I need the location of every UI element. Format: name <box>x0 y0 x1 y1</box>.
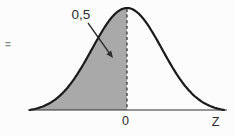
diagram-canvas: 0,5 0 Z = <box>0 0 235 136</box>
shaded-area-left-half <box>30 8 127 110</box>
z-axis-label: Z <box>212 115 220 129</box>
origin-tick-label: 0 <box>122 114 129 128</box>
normal-distribution-figure: 0,5 0 Z = <box>0 0 235 136</box>
shaded-area-value-label: 0,5 <box>72 7 91 22</box>
equals-sign: = <box>5 39 11 50</box>
